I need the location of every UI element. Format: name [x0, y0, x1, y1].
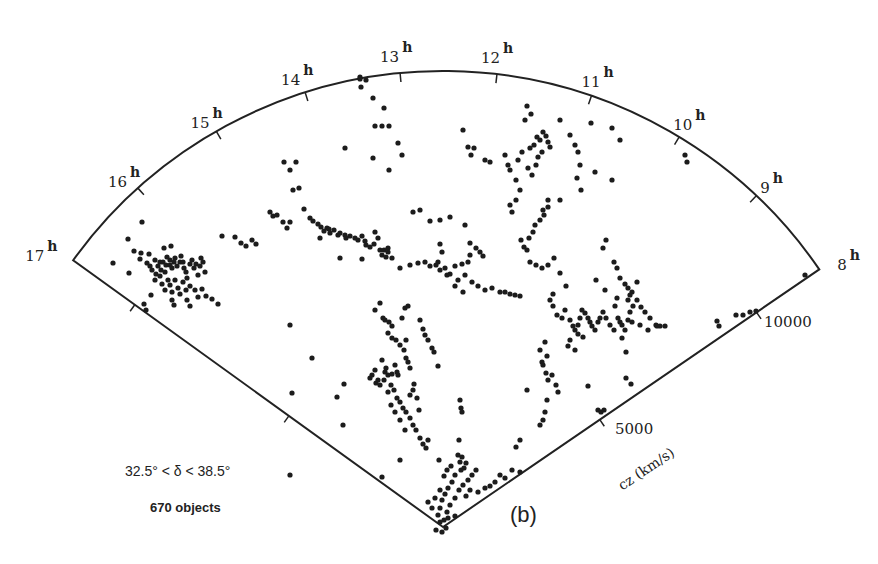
galaxy-point: [407, 415, 412, 420]
galaxy-point: [537, 217, 542, 222]
galaxy-point: [459, 261, 464, 266]
galaxy-point: [593, 277, 598, 282]
galaxy-point: [143, 307, 148, 312]
galaxy-point: [363, 242, 368, 247]
ra-label-10h: 10h: [673, 111, 705, 134]
galaxy-point: [457, 459, 462, 464]
galaxy-point: [487, 159, 492, 164]
galaxy-point: [607, 322, 612, 327]
galaxy-point: [370, 155, 375, 160]
galaxy-point: [612, 303, 617, 308]
ra-label-14h: 14h: [281, 66, 313, 89]
ra-label-9h: 9h: [760, 174, 783, 197]
galaxy-point: [215, 301, 220, 306]
galaxy-point: [545, 139, 550, 144]
galaxy-point: [443, 525, 448, 530]
galaxy-point: [153, 271, 158, 276]
galaxy-point: [379, 123, 384, 128]
galaxy-point: [444, 509, 449, 514]
galaxy-point: [489, 285, 494, 290]
galaxy-point: [465, 477, 470, 482]
galaxy-point: [334, 394, 339, 399]
galaxy-point: [662, 323, 667, 328]
galaxy-point: [371, 241, 376, 246]
galaxy-point: [614, 295, 619, 300]
galaxy-point: [645, 327, 650, 332]
galaxy-point: [802, 272, 807, 277]
declination-range-label: 32.5° < δ < 38.5°: [125, 463, 230, 479]
galaxy-point: [331, 227, 336, 232]
galaxy-point: [747, 309, 752, 314]
galaxy-point: [427, 218, 432, 223]
galaxy-point: [753, 308, 758, 313]
galaxy-point: [149, 267, 154, 272]
galaxy-point: [565, 343, 570, 348]
galaxy-point: [544, 397, 549, 402]
galaxy-point: [435, 259, 440, 264]
galaxy-point: [553, 382, 558, 387]
galaxy-point: [627, 309, 632, 314]
galaxy-point: [209, 296, 214, 301]
galaxy-point: [413, 427, 418, 432]
galaxy-point: [473, 245, 478, 250]
galaxy-point: [184, 297, 189, 302]
galaxy-point: [629, 319, 634, 324]
galaxy-point: [517, 437, 522, 442]
galaxy-point: [448, 463, 453, 468]
galaxy-point: [293, 159, 298, 164]
galaxy-point: [563, 283, 568, 288]
ra-label-11h: 11h: [581, 68, 613, 91]
galaxy-point: [375, 235, 380, 240]
ra-label-15h: 15h: [190, 109, 222, 132]
galaxy-point: [340, 422, 345, 427]
galaxy-point: [562, 307, 567, 312]
cz-tick-mark: [284, 416, 289, 422]
ra-tick-13h: [400, 73, 401, 82]
galaxy-point: [603, 315, 608, 320]
galaxy-point: [342, 145, 347, 150]
galaxy-point: [487, 483, 492, 488]
galaxy-point: [131, 248, 136, 253]
galaxy-point: [382, 369, 387, 374]
galaxy-point: [733, 312, 738, 317]
cz-tick-mark: [600, 420, 605, 427]
galaxy-point: [253, 241, 258, 246]
galaxy-point: [379, 474, 384, 479]
galaxy-point: [417, 317, 422, 322]
galaxy-point: [557, 117, 562, 122]
galaxy-point: [386, 123, 391, 128]
galaxy-point: [395, 140, 400, 145]
galaxy-point: [463, 493, 468, 498]
galaxy-point: [199, 286, 204, 291]
galaxy-point: [461, 465, 466, 470]
galaxy-point: [647, 315, 652, 320]
galaxy-point: [437, 505, 442, 510]
galaxy-point: [379, 357, 384, 362]
galaxy-point: [682, 152, 687, 157]
galaxy-point: [410, 422, 415, 427]
galaxy-point: [414, 395, 419, 400]
galaxy-point: [585, 383, 590, 388]
galaxy-point: [460, 127, 465, 132]
galaxy-point: [372, 123, 377, 128]
galaxy-point: [628, 381, 633, 386]
galaxy-point: [243, 243, 248, 248]
galaxy-point: [507, 202, 512, 207]
ra-tick-14h: [305, 92, 308, 101]
galaxy-point: [195, 272, 200, 277]
galaxy-point: [137, 256, 142, 261]
galaxy-point: [420, 326, 425, 331]
ra-label-16h: 16h: [108, 168, 140, 191]
galaxy-point: [497, 289, 502, 294]
galaxy-point: [467, 252, 472, 257]
galaxy-point: [582, 310, 587, 315]
galaxy-point: [517, 469, 522, 474]
galaxy-point: [530, 229, 535, 234]
galaxy-point: [162, 269, 167, 274]
galaxy-point: [296, 185, 301, 190]
galaxy-point: [417, 435, 422, 440]
galaxy-point: [388, 402, 393, 407]
galaxy-point: [542, 339, 547, 344]
galaxy-point: [638, 304, 643, 309]
galaxy-point: [281, 159, 286, 164]
